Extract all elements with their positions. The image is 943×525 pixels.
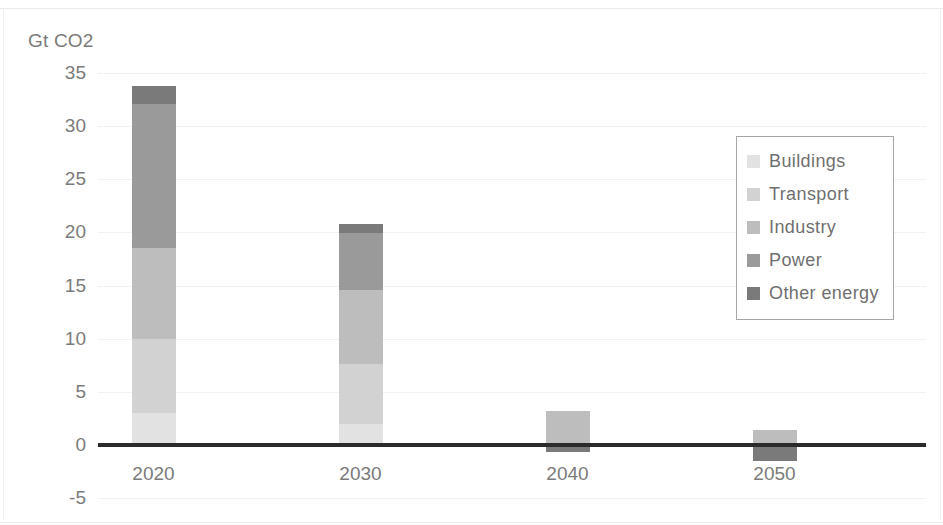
bar-segment[interactable] <box>132 104 176 249</box>
legend-label: Buildings <box>769 151 846 172</box>
legend-swatch-industry-icon <box>747 221 760 234</box>
legend-item[interactable]: Other energy <box>747 277 883 310</box>
chart-container: Gt CO2 35302520151050-5 Buildings Transp… <box>0 0 943 525</box>
gridline <box>98 339 926 340</box>
legend-item[interactable]: Industry <box>747 211 883 244</box>
bar-segment[interactable] <box>132 86 176 104</box>
bar-segment[interactable] <box>339 424 383 445</box>
bar-stack[interactable] <box>546 73 590 498</box>
y-axis-tick-label: 15 <box>24 275 86 297</box>
bar-segment[interactable] <box>339 290 383 364</box>
gridline <box>98 498 926 499</box>
y-axis-tick-label: 35 <box>24 62 86 84</box>
y-axis-tick-label: 30 <box>24 115 86 137</box>
legend-label: Power <box>769 250 822 271</box>
bar-stack[interactable] <box>132 73 176 498</box>
x-axis-tick-label: 2040 <box>546 463 588 485</box>
bar-segment[interactable] <box>339 224 383 233</box>
chart-frame-top-border <box>0 8 943 9</box>
chart-frame-right-border <box>940 8 941 520</box>
y-axis-tick-label: 0 <box>24 434 86 456</box>
legend-label: Transport <box>769 184 849 205</box>
legend-item[interactable]: Buildings <box>747 145 883 178</box>
y-axis-tick-label: 20 <box>24 221 86 243</box>
legend-swatch-buildings-icon <box>747 155 760 168</box>
x-axis-tick-label: 2030 <box>339 463 381 485</box>
y-axis-tick-labels: 35302520151050-5 <box>14 73 86 498</box>
bar-segment[interactable] <box>546 411 590 445</box>
y-axis-tick-label: 25 <box>24 168 86 190</box>
x-axis-tick-label: 2020 <box>132 463 174 485</box>
legend-label: Industry <box>769 217 836 238</box>
bar-segment[interactable] <box>132 413 176 445</box>
y-axis-tick-label: 5 <box>24 381 86 403</box>
legend-item[interactable]: Transport <box>747 178 883 211</box>
legend-item[interactable]: Power <box>747 244 883 277</box>
bar-segment[interactable] <box>753 445 797 461</box>
bar-segment[interactable] <box>132 248 176 338</box>
y-axis-tick-label: 10 <box>24 328 86 350</box>
bar-stack[interactable] <box>339 73 383 498</box>
chart-frame-left-border <box>3 8 4 520</box>
chart-frame-bottom-border <box>0 522 943 523</box>
legend-label: Other energy <box>769 283 879 304</box>
legend-swatch-other-energy-icon <box>747 287 760 300</box>
chart-legend: Buildings Transport Industry Power Other… <box>736 136 894 320</box>
bar-segment[interactable] <box>132 339 176 413</box>
legend-swatch-power-icon <box>747 254 760 267</box>
y-axis-tick-label: -5 <box>24 487 86 509</box>
bar-segment[interactable] <box>339 364 383 424</box>
legend-swatch-transport-icon <box>747 188 760 201</box>
x-axis-tick-label: 2050 <box>753 463 795 485</box>
gridline <box>98 73 926 74</box>
zero-axis-line <box>98 443 926 447</box>
gridline <box>98 392 926 393</box>
bar-segment[interactable] <box>339 233 383 290</box>
y-axis-title: Gt CO2 <box>28 30 94 52</box>
gridline <box>98 126 926 127</box>
